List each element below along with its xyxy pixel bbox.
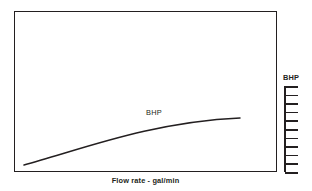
- secondary-axis-tick: [285, 163, 298, 165]
- secondary-axis-tick: [285, 120, 298, 122]
- secondary-axis-tick: [285, 95, 298, 97]
- bhp-curve-label: BHP: [146, 108, 162, 117]
- secondary-axis-tick: [285, 138, 298, 140]
- secondary-axis-tick: [285, 155, 298, 157]
- secondary-axis-title: BHP: [283, 73, 299, 82]
- chart-figure: BHP Flow rate - gal/min BHP: [0, 0, 312, 191]
- secondary-axis-tick: [285, 129, 298, 131]
- secondary-axis-tick: [285, 103, 298, 105]
- secondary-axis-tick: [285, 172, 298, 174]
- plot-frame: [14, 11, 277, 172]
- x-axis-label: Flow rate - gal/min: [14, 176, 277, 185]
- secondary-axis-scale: [284, 86, 306, 172]
- secondary-axis-tick: [285, 146, 298, 148]
- secondary-axis-tick: [285, 86, 298, 88]
- secondary-axis-tick: [285, 112, 298, 114]
